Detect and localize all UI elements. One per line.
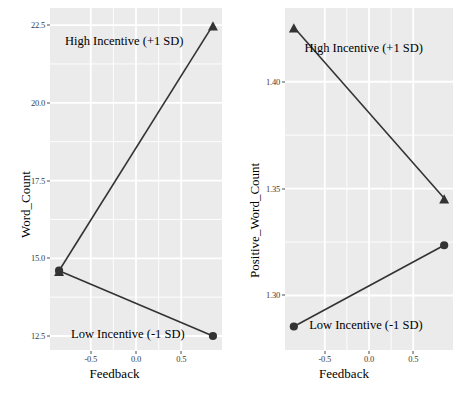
y-axis-tick-label: 1.30	[266, 290, 280, 300]
plot-svg-left	[50, 8, 222, 350]
plot-annotation-label: High Incentive (+1 SD)	[304, 41, 422, 56]
x-axis-tick-mark	[90, 351, 91, 354]
plot-area-left	[50, 8, 222, 350]
y-axis-tick-label: 1.40	[266, 77, 280, 87]
x-axis-tick-label: -0.5	[84, 354, 97, 364]
x-axis-tick-label: 0.0	[131, 354, 141, 364]
plot-annotation-label: High Incentive (+1 SD)	[65, 34, 183, 49]
y-axis-tick-label: 20.0	[31, 98, 45, 108]
y-axis-tick-mark	[47, 258, 50, 259]
data-point-circle	[55, 267, 63, 275]
x-axis-tick-mark	[413, 351, 414, 354]
x-axis-tick-label: 0.5	[408, 354, 418, 364]
data-point-triangle	[439, 194, 449, 203]
y-axis-tick-mark	[47, 180, 50, 181]
y-axis-tick-mark	[282, 81, 285, 82]
y-axis-tick-label: 15.0	[31, 253, 45, 263]
y-axis-title-right: Positive_Word_Count	[247, 163, 263, 278]
y-axis-tick-label: 22.5	[31, 20, 45, 30]
y-axis-title-left: Word_Count	[18, 171, 34, 238]
y-axis-tick-label: 12.5	[31, 331, 45, 341]
plot-annotation-label: Low Incentive (-1 SD)	[71, 327, 185, 342]
x-axis-title-right: Feedback	[229, 366, 459, 382]
y-axis-tick-mark	[47, 102, 50, 103]
data-point-triangle	[289, 23, 299, 32]
y-axis-tick-label: 1.35	[266, 184, 280, 194]
data-point-circle	[290, 322, 298, 330]
y-axis-tick-mark	[282, 295, 285, 296]
plot-area-right	[285, 8, 453, 350]
plot-svg-right	[285, 8, 453, 350]
x-axis-title-left: Feedback	[0, 366, 229, 382]
chart-panel-right: 1.301.351.40 -0.50.00.5 High Incentive (…	[229, 0, 459, 394]
x-axis-tick-label: -0.5	[318, 354, 331, 364]
x-axis-tick-label: 0.0	[364, 354, 374, 364]
y-axis-tick-mark	[282, 188, 285, 189]
data-point-circle	[440, 241, 448, 249]
data-point-circle	[209, 332, 217, 340]
chart-panel-left: 12.515.017.520.022.5 -0.50.00.5 High Inc…	[0, 0, 229, 394]
x-axis-tick-mark	[369, 351, 370, 354]
y-axis-tick-mark	[47, 336, 50, 337]
plot-annotation-label: Low Incentive (-1 SD)	[309, 318, 423, 333]
x-axis-tick-mark	[136, 351, 137, 354]
x-axis-tick-mark	[181, 351, 182, 354]
figure-canvas: 12.515.017.520.022.5 -0.50.00.5 High Inc…	[0, 0, 459, 394]
x-axis-tick-label: 0.5	[176, 354, 186, 364]
y-axis-tick-mark	[47, 25, 50, 26]
x-axis-tick-mark	[324, 351, 325, 354]
